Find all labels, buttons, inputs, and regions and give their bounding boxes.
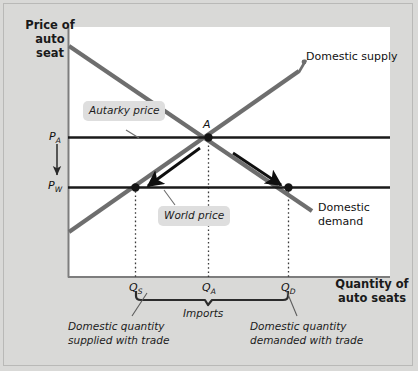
x-tick-qd-sub: D	[290, 287, 296, 296]
world-price-callout: World price	[158, 206, 230, 226]
y-tick-pw: PW	[48, 179, 62, 194]
x-tick-qs-sub: S	[138, 287, 143, 296]
plot-area	[68, 27, 390, 277]
point-qs-dot	[131, 183, 139, 191]
x-tick-qs: QS	[129, 281, 142, 296]
figure-container: Price of auto seat Quantity of auto seat…	[0, 0, 418, 371]
x-tick-qd-base: Q	[281, 281, 290, 294]
point-qd-dot	[284, 183, 292, 191]
y-tick-pw-sub: W	[55, 185, 62, 194]
domestic-supplied-note: Domestic quantity supplied with trade	[68, 320, 188, 347]
domestic-supply-label: Domestic supply	[306, 50, 398, 64]
x-tick-qa: QA	[202, 281, 216, 296]
x-tick-qd: QD	[281, 281, 295, 296]
y-tick-pa: PA	[49, 130, 61, 145]
point-a-dot	[204, 133, 212, 141]
autarky-price-callout: Autarky price	[83, 101, 165, 121]
y-tick-pw-base: P	[48, 179, 55, 192]
point-a-label: A	[203, 118, 211, 131]
y-tick-pa-sub: A	[56, 136, 61, 145]
domestic-demand-label: Domestic demand	[318, 201, 418, 229]
x-tick-qa-base: Q	[202, 281, 211, 294]
x-tick-qa-sub: A	[211, 287, 216, 296]
x-axis-title: Quantity of auto seats	[332, 277, 412, 305]
imports-label: Imports	[183, 307, 223, 321]
domestic-demanded-note: Domestic quantity demanded with trade	[250, 320, 370, 347]
supplied-note-leader	[132, 293, 147, 316]
x-tick-qs-base: Q	[129, 281, 138, 294]
y-tick-pa-base: P	[49, 130, 56, 143]
y-axis-title: Price of auto seat	[20, 18, 80, 60]
